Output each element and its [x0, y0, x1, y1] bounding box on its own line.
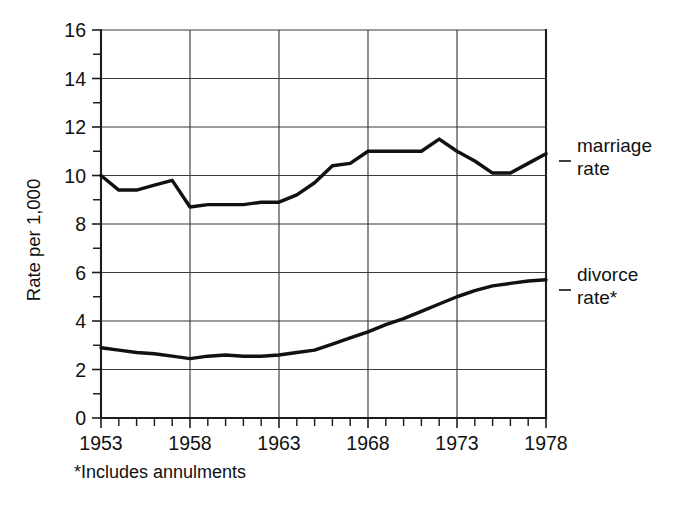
marriage-legend-label-line1: marriage	[577, 135, 652, 156]
y-axis-ticks	[92, 30, 101, 418]
marriage-divorce-rate-line-chart: 0246810121416 195319581963196819731978 R…	[0, 0, 685, 506]
y-tick-label-14: 14	[64, 68, 86, 90]
y-tick-label-4: 4	[75, 310, 86, 332]
x-axis-tick-labels: 195319581963196819731978	[79, 432, 567, 454]
y-tick-label-6: 6	[75, 262, 86, 284]
x-tick-label-1958: 1958	[168, 432, 211, 454]
y-tick-label-12: 12	[64, 116, 86, 138]
y-tick-label-8: 8	[75, 213, 86, 235]
y-tick-label-16: 16	[64, 19, 86, 41]
x-tick-label-1973: 1973	[435, 432, 478, 454]
marriage-legend-label-line2: rate	[577, 158, 610, 179]
chart-footnote: *Includes annulments	[74, 462, 246, 482]
y-axis-tick-labels: 0246810121416	[64, 19, 86, 429]
divorce-legend-label-line2: rate*	[577, 287, 618, 308]
y-tick-label-0: 0	[75, 407, 86, 429]
x-tick-label-1963: 1963	[257, 432, 300, 454]
y-tick-label-10: 10	[64, 165, 86, 187]
x-axis-ticks	[101, 418, 546, 428]
y-axis-title: Rate per 1,000	[23, 179, 44, 301]
x-tick-label-1953: 1953	[79, 432, 122, 454]
y-tick-label-2: 2	[75, 359, 86, 381]
x-tick-label-1978: 1978	[524, 432, 567, 454]
divorce-legend-label-line1: divorce	[577, 264, 638, 285]
chart-figure: 0246810121416 195319581963196819731978 R…	[0, 0, 685, 506]
x-tick-label-1968: 1968	[346, 432, 389, 454]
